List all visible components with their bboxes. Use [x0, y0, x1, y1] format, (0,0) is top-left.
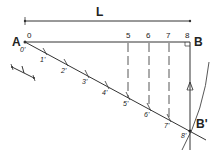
division-label-6: 6 [146, 31, 151, 40]
division-label-5: 5 [126, 31, 131, 40]
diagonal-label-7: 7' [164, 122, 170, 129]
diagonal-label-5: 5' [123, 100, 129, 107]
right-angle-marker [185, 42, 190, 46]
point-b-label: B [194, 35, 203, 49]
division-label-8: 8 [185, 31, 190, 40]
diagonal-line: 0' 1' 2' 3' 4' 5' 6' 7' 8' [20, 41, 206, 141]
division-construction-diagram: L A B 0 5 6 7 8 0' 1' 2' 3' 4' 5' 6 [0, 0, 217, 151]
unit-scale [11, 64, 35, 81]
point-b-prime-label: B' [196, 117, 208, 131]
diagonal-label-0: 0' [20, 46, 26, 53]
line-ab: A B 0 5 6 7 8 [12, 31, 203, 49]
point-a-marker [24, 41, 27, 44]
diagonal-label-1: 1' [40, 56, 46, 63]
diagonal-label-3: 3' [82, 78, 88, 85]
dimension-label: L [96, 5, 103, 19]
diagonal-label-6: 6' [144, 111, 150, 118]
diagonal-label-2: 2' [60, 67, 67, 74]
division-label-0: 0 [27, 31, 32, 40]
projection-lines [128, 43, 169, 119]
dimension-line-l: L [24, 5, 191, 25]
division-label-7: 7 [166, 31, 171, 40]
diagonal-label-4: 4' [102, 89, 108, 96]
diagonal-label-8: 8' [181, 132, 187, 139]
